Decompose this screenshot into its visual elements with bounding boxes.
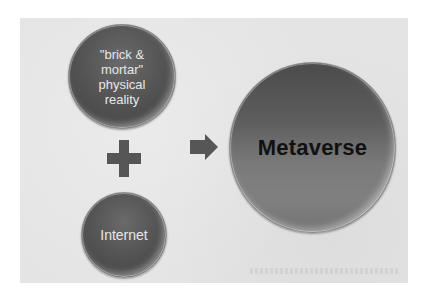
internet-label: Internet bbox=[100, 228, 147, 243]
bleed-through-texture bbox=[250, 268, 400, 274]
brick-and-mortar-node: "brick & mortar" physical reality bbox=[68, 24, 176, 129]
metaverse-node: Metaverse bbox=[229, 62, 396, 233]
metaverse-label: Metaverse bbox=[258, 135, 367, 161]
plus-horizontal-bar bbox=[107, 153, 141, 164]
brick-and-mortar-label: "brick & mortar" physical reality bbox=[82, 47, 162, 107]
arrow-shape bbox=[190, 134, 218, 160]
arrow-right-icon bbox=[190, 134, 218, 160]
internet-node: Internet bbox=[81, 192, 167, 278]
plus-icon bbox=[107, 140, 141, 177]
